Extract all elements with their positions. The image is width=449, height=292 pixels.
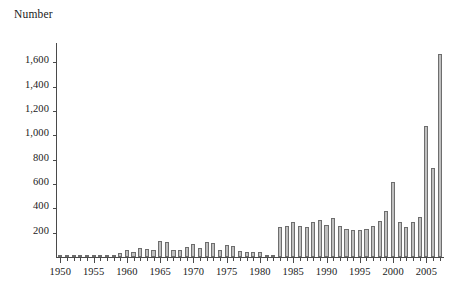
x-tick-mark bbox=[400, 258, 401, 261]
x-tick-mark bbox=[413, 258, 414, 261]
x-tick-mark bbox=[154, 258, 155, 261]
x-tick-mark bbox=[167, 258, 168, 261]
bar bbox=[404, 227, 408, 257]
x-tick-mark bbox=[267, 258, 268, 261]
bar bbox=[112, 255, 116, 257]
x-tick-mark bbox=[134, 258, 135, 261]
bar bbox=[291, 222, 295, 257]
bar bbox=[231, 246, 235, 257]
bar bbox=[398, 222, 402, 257]
x-tick-mark bbox=[393, 258, 394, 263]
bar bbox=[191, 244, 195, 257]
x-tick-label: 1995 bbox=[349, 266, 370, 277]
y-tick-label: 600 bbox=[33, 176, 49, 187]
bar bbox=[145, 249, 149, 257]
y-tick-label: 1,000 bbox=[25, 127, 49, 138]
x-tick-mark bbox=[300, 258, 301, 261]
x-tick-mark bbox=[347, 258, 348, 261]
bar bbox=[384, 211, 388, 257]
x-tick-mark bbox=[213, 258, 214, 261]
plot-area bbox=[57, 44, 443, 257]
bar bbox=[271, 255, 275, 257]
x-tick-mark bbox=[200, 258, 201, 261]
bar bbox=[151, 250, 155, 257]
bar bbox=[338, 226, 342, 257]
x-tick-label: 1990 bbox=[316, 266, 337, 277]
x-tick-mark bbox=[440, 258, 441, 261]
x-tick-label: 1955 bbox=[83, 266, 104, 277]
x-tick-label: 1980 bbox=[249, 266, 270, 277]
y-axis-title: Number bbox=[14, 8, 53, 20]
bar bbox=[185, 247, 189, 257]
x-tick-mark bbox=[320, 258, 321, 261]
bar bbox=[438, 54, 442, 257]
x-tick-mark bbox=[127, 258, 128, 263]
x-tick-mark bbox=[180, 258, 181, 261]
bar bbox=[311, 222, 315, 257]
x-tick-mark bbox=[94, 258, 95, 263]
x-tick-mark bbox=[140, 258, 141, 261]
bar bbox=[92, 255, 96, 257]
bar bbox=[305, 227, 309, 257]
x-tick-mark bbox=[120, 258, 121, 261]
bar bbox=[211, 243, 215, 257]
x-tick-mark bbox=[260, 258, 261, 263]
x-tick-label: 1965 bbox=[149, 266, 170, 277]
bar bbox=[105, 255, 109, 257]
bar bbox=[371, 226, 375, 257]
bar bbox=[171, 250, 175, 257]
bar bbox=[424, 126, 428, 257]
bar bbox=[411, 222, 415, 257]
y-tick-label: 400 bbox=[33, 200, 49, 211]
x-tick-mark bbox=[253, 258, 254, 261]
bar bbox=[285, 226, 289, 257]
y-tick-label: 1,400 bbox=[25, 79, 49, 90]
bar-chart-figure: Number 1,6001,4001,2001,000800600400200 … bbox=[0, 0, 449, 292]
x-tick-mark bbox=[373, 258, 374, 261]
bar bbox=[198, 248, 202, 257]
bar bbox=[225, 245, 229, 257]
x-tick-mark bbox=[366, 258, 367, 261]
x-tick-mark bbox=[340, 258, 341, 261]
bar bbox=[298, 226, 302, 257]
bar bbox=[351, 230, 355, 257]
bar bbox=[245, 252, 249, 257]
y-tick-label: 200 bbox=[33, 225, 49, 236]
x-tick-mark bbox=[333, 258, 334, 261]
bar bbox=[165, 242, 169, 257]
bar bbox=[278, 227, 282, 257]
bar bbox=[78, 255, 82, 257]
bar bbox=[358, 230, 362, 257]
bar bbox=[318, 220, 322, 257]
bar bbox=[131, 252, 135, 257]
bar bbox=[331, 218, 335, 257]
bar bbox=[378, 221, 382, 258]
x-tick-mark bbox=[67, 258, 68, 261]
bar bbox=[238, 251, 242, 257]
bar bbox=[125, 250, 129, 257]
x-tick-label: 1950 bbox=[50, 266, 71, 277]
y-tick-label: 1,200 bbox=[25, 103, 49, 114]
bar bbox=[418, 217, 422, 257]
bar bbox=[251, 252, 255, 257]
bar bbox=[258, 252, 262, 257]
x-tick-label: 1960 bbox=[116, 266, 137, 277]
x-tick-mark bbox=[160, 258, 161, 263]
x-tick-label: 2000 bbox=[382, 266, 403, 277]
bar bbox=[391, 182, 395, 257]
bar bbox=[138, 248, 142, 257]
x-tick-mark bbox=[420, 258, 421, 261]
x-tick-mark bbox=[360, 258, 361, 263]
bar bbox=[58, 255, 62, 257]
bar bbox=[344, 229, 348, 257]
y-tick-label: 800 bbox=[33, 152, 49, 163]
bar bbox=[98, 255, 102, 257]
bar bbox=[65, 255, 69, 257]
x-tick-mark bbox=[240, 258, 241, 261]
bar bbox=[72, 255, 76, 257]
x-tick-mark bbox=[207, 258, 208, 261]
x-tick-mark bbox=[74, 258, 75, 261]
bar bbox=[431, 168, 435, 257]
x-tick-mark bbox=[227, 258, 228, 263]
bar bbox=[218, 250, 222, 257]
